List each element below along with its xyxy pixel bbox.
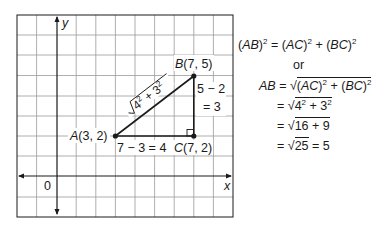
coordinate-graph: 0 x y A(3, 2) B(7, 5) C(7, 2) 7 − 3 = 4 … (0, 0, 240, 230)
point-c (191, 133, 196, 138)
point-b (191, 73, 196, 78)
equation-line-5: = √25 = 5 (277, 139, 330, 153)
point-b-label: B(7, 5) (175, 57, 213, 71)
point-a (113, 133, 118, 138)
y-axis-arrow-up-icon (55, 16, 60, 22)
x-axis-arrow-right-icon (226, 174, 232, 179)
equation-line-4: = √16 + 9 (277, 119, 330, 133)
equation-line-1: (AB)2 = (AC)2 + (BC)2 (238, 38, 356, 52)
y-axis-arrow-down-icon (55, 209, 60, 215)
y-axis-label: y (61, 16, 69, 30)
origin-label: 0 (44, 179, 51, 193)
equation-or: or (293, 58, 304, 72)
segment-bc-label-line1: 5 − 2 (197, 82, 225, 96)
x-axis-label: x (223, 179, 231, 193)
point-c-label: C(7, 2) (174, 141, 212, 155)
equation-line-3: = √42 + 32 (277, 99, 332, 113)
segment-ac-label: 7 − 3 = 4 (117, 141, 166, 155)
point-a-label: A(3, 2) (69, 129, 108, 143)
x-axis-arrow-left-icon (18, 174, 24, 179)
equation-line-2: AB = √(AC)2 + (BC)2 (259, 79, 371, 93)
segment-bc-label-line2: = 3 (203, 100, 221, 114)
